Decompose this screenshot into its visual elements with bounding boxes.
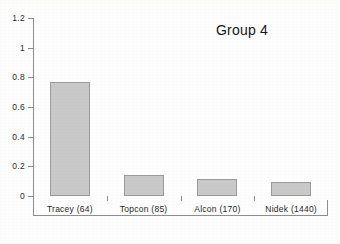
y-axis-tick-label: 1 [0,43,25,53]
y-axis-tick [28,18,33,19]
chart-figure: 00.20.40.60.811.2 Tracey (64)Topcon (85)… [0,0,340,244]
y-axis-tick-label: 0.2 [0,161,25,171]
plot-frame-right-edge [327,200,328,216]
y-axis-tick-label: 0.6 [0,102,25,112]
y-axis-tick [28,196,33,197]
bar [124,175,164,196]
plot-frame-bottom-rule [33,215,328,216]
chart-title: Group 4 [216,22,268,38]
y-axis-tick-label: 0.4 [0,132,25,142]
y-axis-tick [28,48,33,49]
x-axis-tick [107,196,108,201]
y-axis-tick-label: 1.2 [0,13,25,23]
x-axis-category-label: Topcon (85) [120,204,168,214]
x-axis-category-label: Alcon (170) [194,204,240,214]
x-axis-category-label: Tracey (64) [47,204,93,214]
bar [271,182,311,196]
bar [50,82,90,196]
y-axis-tick [28,166,33,167]
x-axis-tick [254,196,255,201]
y-axis-tick-label: 0.8 [0,72,25,82]
bar [197,179,237,196]
y-axis-tick [28,77,33,78]
x-axis-tick [181,196,182,201]
y-axis-tick [28,107,33,108]
y-axis-tick-label: 0 [0,191,25,201]
y-axis-tick [28,137,33,138]
x-axis-category-label: Nidek (1440) [265,204,317,214]
